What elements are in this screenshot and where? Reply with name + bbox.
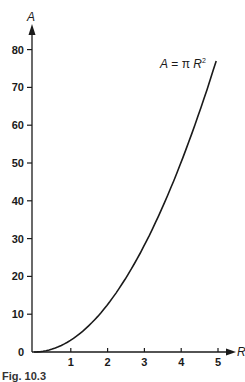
x-tick-label: 3 — [141, 356, 147, 368]
formula-annotation: A = π R2 — [159, 57, 206, 71]
y-tick-label: 30 — [12, 233, 24, 245]
x-tick-label: 2 — [105, 356, 111, 368]
x-tick-label: 4 — [178, 356, 185, 368]
area-curve — [34, 61, 216, 352]
y-tick-label: 70 — [12, 81, 24, 93]
x-axis — [32, 349, 236, 356]
y-tick-label: 60 — [12, 119, 24, 131]
y-tick-label: 80 — [12, 44, 24, 56]
x-axis-label: R — [237, 345, 245, 359]
y-tick-label: 10 — [12, 308, 24, 320]
x-ticks: 12345 — [68, 348, 221, 368]
y-axis-arrow-icon — [29, 24, 36, 35]
y-tick-label: 0 — [18, 346, 24, 358]
y-axis — [29, 24, 36, 352]
y-axis-label: A — [26, 10, 35, 24]
x-tick-label: 1 — [68, 356, 74, 368]
x-axis-arrow-icon — [226, 349, 236, 356]
y-tick-label: 50 — [12, 157, 24, 169]
y-ticks: 01020304050607080 — [12, 44, 32, 358]
figure-caption: Fig. 10.3 — [2, 370, 46, 382]
x-tick-label: 5 — [215, 356, 221, 368]
y-tick-label: 20 — [12, 270, 24, 282]
y-tick-label: 40 — [12, 195, 24, 207]
